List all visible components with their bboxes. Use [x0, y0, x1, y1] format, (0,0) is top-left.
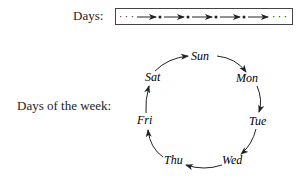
day-fri: Fri	[136, 113, 152, 127]
days-of-week-label: Days of the week:	[17, 98, 111, 114]
day-thu: Thu	[164, 153, 183, 167]
diagram-canvas: · · · · · · Sun Mon Tue Wed Thu Fri Sat	[0, 0, 308, 182]
day-wed: Wed	[222, 153, 243, 167]
day-tue: Tue	[249, 114, 267, 128]
day-mon: Mon	[235, 71, 258, 85]
day-sun: Sun	[191, 49, 209, 63]
day-sat: Sat	[145, 70, 161, 84]
linear-days-box: · · · · · ·	[116, 9, 293, 25]
start-ellipsis: · · ·	[119, 11, 134, 22]
end-ellipsis: · · ·	[272, 11, 287, 22]
